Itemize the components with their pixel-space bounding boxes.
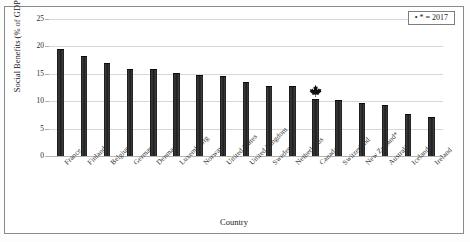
- maple-leaf-icon: [309, 83, 322, 96]
- y-axis-tick-label: 5: [40, 125, 44, 133]
- bar[interactable]: [220, 76, 227, 156]
- bar-column[interactable]: France: [57, 19, 64, 156]
- bar[interactable]: [335, 100, 342, 156]
- bar-column[interactable]: Australia: [382, 19, 389, 156]
- bar[interactable]: [57, 49, 64, 156]
- bar[interactable]: [382, 105, 389, 157]
- bar-column[interactable]: United Kingdom: [243, 19, 250, 156]
- bar[interactable]: [312, 99, 319, 156]
- y-axis-tick-label: 25: [37, 15, 45, 23]
- bar[interactable]: [266, 86, 273, 156]
- bar[interactable]: [127, 69, 134, 156]
- bar-column[interactable]: New Zealand*: [359, 19, 366, 156]
- bar[interactable]: [104, 63, 111, 156]
- y-axis-tick-label: 10: [37, 97, 45, 105]
- asterisk-marker-icon: •: [415, 14, 418, 22]
- bar-column[interactable]: Germany: [127, 19, 134, 156]
- chart-screenshot: 0510152025 FranceFinlandBelgiumGermanyDe…: [0, 0, 470, 242]
- y-axis-tick-mark: [45, 156, 49, 157]
- x-axis-tick-label: Ireland: [434, 147, 454, 167]
- bar-column[interactable]: Ireland: [428, 19, 435, 156]
- chart-legend: • * = 2017: [408, 11, 455, 25]
- bar-series: FranceFinlandBelgiumGermanyDenmarkLuxemb…: [49, 19, 443, 156]
- bar-column[interactable]: Netherlands: [289, 19, 296, 156]
- bar[interactable]: [428, 117, 435, 156]
- bar-column[interactable]: Norway: [196, 19, 203, 156]
- figure-frame: 0510152025 FranceFinlandBelgiumGermanyDe…: [4, 6, 464, 234]
- bar-column[interactable]: Switzerland: [335, 19, 342, 156]
- bar-column[interactable]: Belgium: [104, 19, 111, 156]
- y-axis-tick-label: 20: [37, 43, 45, 51]
- bar[interactable]: [196, 75, 203, 156]
- bar[interactable]: [289, 86, 296, 156]
- gridline: [49, 156, 443, 157]
- bar[interactable]: [405, 114, 412, 156]
- bar-column[interactable]: Luxembourg: [173, 19, 180, 156]
- bar-column[interactable]: Sweden: [266, 19, 273, 156]
- y-axis-tick-label: 0: [40, 152, 44, 160]
- legend-label: * = 2017: [419, 14, 448, 22]
- bar-column[interactable]: Iceland: [405, 19, 412, 156]
- bar-column[interactable]: United States: [220, 19, 227, 156]
- plot-area: 0510152025 FranceFinlandBelgiumGermanyDe…: [49, 19, 443, 156]
- y-axis-tick-label: 15: [37, 70, 45, 78]
- bar[interactable]: [359, 103, 366, 156]
- bar[interactable]: [150, 69, 157, 156]
- bar[interactable]: [81, 56, 88, 156]
- bar-column[interactable]: Finland: [81, 19, 88, 156]
- bar[interactable]: [173, 73, 180, 156]
- bar-column[interactable]: Denmark: [150, 19, 157, 156]
- x-axis-title: Country: [5, 218, 463, 227]
- bar[interactable]: [243, 82, 250, 156]
